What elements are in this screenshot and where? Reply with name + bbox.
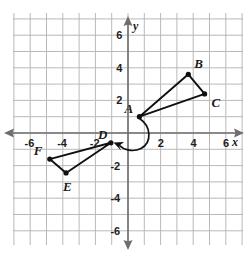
vertex-point-e [63,170,68,175]
y-tick-label: 2 [116,95,122,106]
x-axis-arrow-left [4,129,14,138]
vertex-label-f: F [34,144,43,157]
y-tick-label: -6 [110,226,120,237]
vertex-point-f [47,156,52,161]
vertex-label-d: D [98,128,107,141]
vertex-label-e: E [63,180,72,193]
triangle-outline [139,74,204,116]
x-tick-label: 2 [158,138,164,149]
vertex-point-d [108,140,113,145]
vertex-label-a: A [124,102,133,115]
x-tick-label: -4 [57,138,67,149]
y-tick-label: 4 [116,63,122,74]
vertex-point-c [202,91,207,96]
y-tick-label: 6 [116,30,122,41]
y-axis-arrow-up [124,16,133,26]
vertex-label-b: B [194,57,203,70]
x-tick-label: 6 [223,138,229,149]
graph-figure: -6-4-2246642-2-4-6 ABCDEF x y [0,0,248,253]
y-tick-label: -4 [110,193,120,204]
y-tick-label: -2 [110,161,120,172]
x-axis-label: x [232,136,238,148]
vertex-point-b [186,72,191,77]
y-axis-arrow-down [124,240,133,250]
coordinate-plane-svg [0,0,248,253]
triangles [47,72,207,176]
x-tick-label: 4 [190,138,196,149]
vertex-label-c: C [212,96,221,109]
y-axis-label: y [133,20,138,32]
rotation-annotation [114,119,149,151]
